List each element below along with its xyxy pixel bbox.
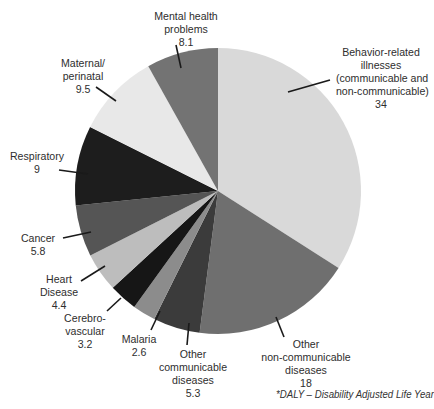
label-line: Other [158,348,228,361]
label-line: Maternal/ [51,57,115,70]
label-line: Respiratory [7,150,68,163]
label-value: 34 [336,98,426,111]
label-mental-health: Mental health problems 8.1 [149,10,223,49]
label-line: Disease [38,286,80,299]
label-line: illnesses [336,59,426,72]
label-line: vascular [62,325,108,338]
label-line: Cerebro- [62,312,108,325]
label-line: non-communicable [260,351,352,364]
footnote: *DALY – Disability Adjusted Life Year [276,388,434,400]
pie-slices [75,48,361,334]
label-malaria: Malaria 2.6 [116,333,162,359]
label-line: Mental health [149,10,223,23]
label-cancer: Cancer 5.8 [20,232,57,258]
label-value: 2.6 [116,346,162,359]
label-line: communicable [158,361,228,374]
label-value: 8.1 [149,36,223,49]
label-line: diseases [260,364,352,377]
label-other-communicable: Other communicable diseases 5.3 [158,348,228,400]
label-line: diseases [158,374,228,387]
label-behavior-related: Behavior-related illnesses (communicable… [336,46,426,111]
label-value: 5.8 [20,245,57,258]
label-heart-disease: Heart Disease 4.4 [38,273,80,312]
label-line: Behavior-related [336,46,426,59]
label-line: Heart [38,273,80,286]
label-line: Malaria [116,333,162,346]
label-line: (communicable and [336,72,426,85]
label-value: 9 [7,163,68,176]
label-line: problems [149,23,223,36]
label-value: 4.4 [38,299,80,312]
label-line: Other [260,338,352,351]
label-line: Cancer [20,232,57,245]
label-line: non-communicable) [336,85,426,98]
label-maternal-perinatal: Maternal/ perinatal 9.5 [51,57,115,96]
label-value: 3.2 [62,338,108,351]
leader-cerebro [107,298,121,311]
label-value: 5.3 [158,387,228,400]
label-cerebrovascular: Cerebro- vascular 3.2 [62,312,108,351]
label-other-non-communicable: Other non-communicable diseases 18 [260,338,352,390]
label-respiratory: Respiratory 9 [7,150,68,176]
label-line: perinatal [51,70,115,83]
leader-other-noncomm [276,317,284,337]
label-value: 9.5 [51,83,115,96]
